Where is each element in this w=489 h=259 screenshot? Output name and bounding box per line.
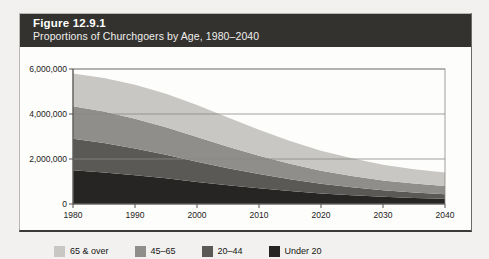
stacked-area-chart: 02,000,0004,000,0006,000,000198019902000… (20, 47, 471, 230)
x-tick-label: 2020 (312, 210, 331, 220)
y-tick-label: 4,000,000 (29, 109, 67, 119)
y-tick-label: 6,000,000 (29, 64, 67, 74)
legend-item[interactable]: 65 & over (54, 246, 109, 257)
legend-item[interactable]: 20–44 (202, 246, 243, 257)
y-tick-label: 0 (62, 199, 67, 209)
chart-legend: 65 & over45–6520–44Under 20 (20, 243, 471, 259)
x-tick-label: 2040 (436, 210, 455, 220)
legend-label: Under 20 (285, 246, 322, 257)
figure-container: Figure 12.9.1 Proportions of Churchgoers… (19, 13, 472, 232)
figure-header-band: Figure 12.9.1 Proportions of Churchgoers… (20, 14, 471, 47)
chart-body: 02,000,0004,000,0006,000,000198019902000… (20, 47, 471, 230)
y-tick-label: 2,000,000 (29, 154, 67, 164)
legend-swatch (135, 246, 146, 257)
legend-swatch (54, 246, 65, 257)
legend-label: 45–65 (151, 246, 176, 257)
legend-label: 20–44 (218, 246, 243, 257)
legend-swatch (269, 246, 280, 257)
x-tick-label: 2030 (374, 210, 393, 220)
figure-title: Figure 12.9.1 (33, 17, 106, 29)
x-tick-label: 1980 (64, 210, 83, 220)
x-tick-label: 2010 (250, 210, 269, 220)
legend-swatch (202, 246, 213, 257)
legend-item[interactable]: Under 20 (269, 246, 322, 257)
legend-label: 65 & over (70, 246, 109, 257)
figure-subtitle: Proportions of Churchgoers by Age, 1980–… (33, 30, 259, 42)
x-tick-label: 2000 (188, 210, 207, 220)
legend-item[interactable]: 45–65 (135, 246, 176, 257)
x-tick-label: 1990 (126, 210, 145, 220)
